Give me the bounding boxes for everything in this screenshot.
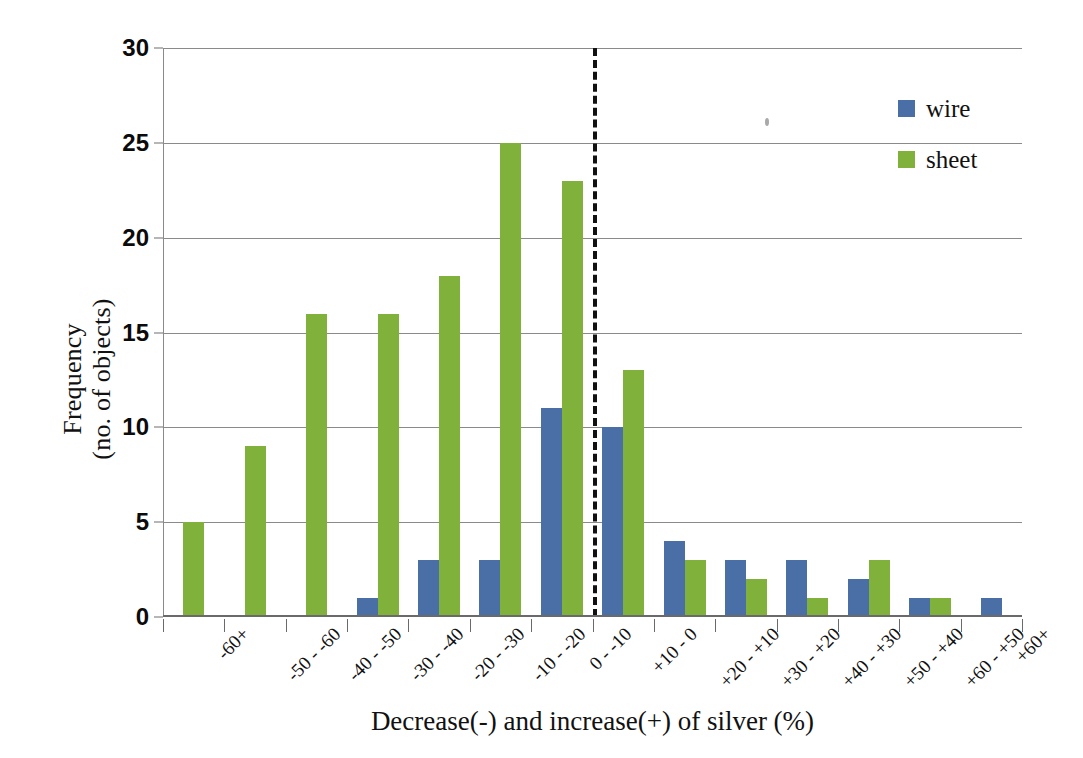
- bar-sheet[interactable]: [439, 276, 460, 617]
- x-tick-mark: [838, 619, 839, 632]
- y-tick-mark: [154, 237, 163, 238]
- legend-label: sheet: [926, 147, 977, 172]
- bar-wire[interactable]: [602, 427, 623, 617]
- bar-group: [593, 48, 654, 617]
- image-speck-artifact: [765, 118, 769, 126]
- x-tick-label: -60+: [212, 623, 253, 664]
- bar-group: [347, 48, 408, 617]
- x-tick-mark: [654, 619, 655, 632]
- bar-group: [286, 48, 347, 617]
- x-tick-label: +20 - +10: [715, 623, 784, 692]
- bar-sheet[interactable]: [183, 522, 204, 617]
- y-tick-label: 0: [103, 603, 149, 631]
- x-tick-mark: [224, 619, 225, 632]
- x-tick-mark: [163, 619, 164, 632]
- bar-group: [838, 48, 899, 617]
- bar-wire[interactable]: [664, 541, 685, 617]
- y-tick-label: 5: [103, 508, 149, 536]
- x-tick-label: +40 - +30: [837, 623, 906, 692]
- bar-wire[interactable]: [786, 560, 807, 617]
- y-tick-mark: [154, 48, 163, 49]
- x-tick-mark: [1022, 619, 1023, 632]
- bar-sheet[interactable]: [245, 446, 266, 617]
- bar-group: [470, 48, 531, 617]
- x-axis-title: Decrease(-) and increase(+) of silver (%…: [163, 706, 1022, 737]
- bar-sheet[interactable]: [500, 143, 521, 617]
- bar-sheet[interactable]: [746, 579, 767, 617]
- bar-sheet[interactable]: [306, 314, 327, 617]
- bar-wire[interactable]: [541, 408, 562, 617]
- x-tick-mark: [531, 619, 532, 632]
- x-tick-label: -50 - -60: [283, 623, 346, 686]
- x-tick-mark: [408, 619, 409, 632]
- legend-item[interactable]: wire: [898, 96, 977, 121]
- bar-group: [654, 48, 715, 617]
- y-tick-mark: [154, 522, 163, 523]
- x-axis: -60+-50 - -60-40 - -50-30 - -40-20 - -30…: [163, 619, 1022, 719]
- x-tick-label: -10 - -20: [528, 623, 591, 686]
- x-tick-label: -30 - -40: [405, 623, 468, 686]
- x-tick-label: -40 - -50: [344, 623, 407, 686]
- x-tick-mark: [347, 619, 348, 632]
- legend-item[interactable]: sheet: [898, 147, 977, 172]
- bar-group: [408, 48, 469, 617]
- y-tick-label: 10: [103, 413, 149, 441]
- y-tick-label: 25: [103, 129, 149, 157]
- bar-wire[interactable]: [848, 579, 869, 617]
- bar-wire[interactable]: [725, 560, 746, 617]
- legend-label: wire: [926, 96, 970, 121]
- bar-wire[interactable]: [418, 560, 439, 617]
- bar-sheet[interactable]: [562, 181, 583, 617]
- zero-divider-line: [593, 48, 597, 617]
- x-tick-mark: [286, 619, 287, 632]
- bar-sheet[interactable]: [623, 370, 644, 617]
- plot-area: [163, 48, 1022, 617]
- bar-group: [163, 48, 224, 617]
- x-tick-mark: [593, 619, 594, 632]
- legend: wiresheet: [898, 96, 977, 172]
- x-tick-mark: [470, 619, 471, 632]
- y-tick-label: 15: [103, 319, 149, 347]
- x-tick-mark: [961, 619, 962, 632]
- legend-swatch-icon: [898, 100, 915, 117]
- bar-group: [224, 48, 285, 617]
- y-tick-mark: [154, 332, 163, 333]
- x-tick-label: -20 - -30: [467, 623, 530, 686]
- bar-sheet[interactable]: [869, 560, 890, 617]
- x-tick-mark: [899, 619, 900, 632]
- y-tick-label: 20: [103, 224, 149, 252]
- bar-wire[interactable]: [479, 560, 500, 617]
- y-tick-mark: [154, 142, 163, 143]
- bar-group: [777, 48, 838, 617]
- x-tick-label: +10 - 0: [647, 623, 701, 677]
- x-tick-mark: [777, 619, 778, 632]
- y-axis-title-line1: Frequency: [58, 298, 87, 459]
- bar-sheet[interactable]: [378, 314, 399, 617]
- y-tick-mark: [154, 427, 163, 428]
- x-tick-label: +50 - +40: [899, 623, 968, 692]
- bar-group: [531, 48, 592, 617]
- bar-sheet[interactable]: [685, 560, 706, 617]
- y-tick-mark: [154, 617, 163, 618]
- y-tick-label: 30: [103, 34, 149, 62]
- legend-swatch-icon: [898, 151, 915, 168]
- x-tick-label: +30 - +20: [776, 623, 845, 692]
- bar-chart: Frequency (no. of objects) 051015202530 …: [0, 0, 1083, 758]
- bar-group: [715, 48, 776, 617]
- x-tick-mark: [715, 619, 716, 632]
- x-axis-line: [163, 615, 1022, 617]
